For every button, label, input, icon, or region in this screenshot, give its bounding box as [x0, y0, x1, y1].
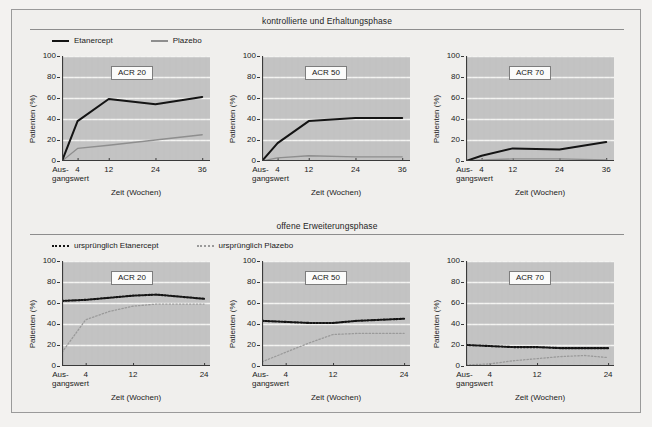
y-tick-mark [461, 98, 464, 99]
y-tick-label: 80 [47, 73, 56, 81]
y-tick-label: 20 [47, 136, 56, 144]
section-title-controlled: kontrollierte und Erhaltungsphase [30, 16, 624, 27]
y-axis-ticks: 020406080100 [226, 50, 260, 167]
x-tick-label: 24 [151, 165, 160, 174]
x-axis-label: Zeit (Wochen) [62, 393, 210, 402]
x-tick-label: 4 [487, 370, 491, 379]
panel-title-badge: ACR 20 [111, 271, 153, 285]
y-axis-ticks: 020406080100 [26, 255, 60, 372]
x-tick-label-baseline-second-line: gangswert [466, 174, 614, 185]
panel-openlabel-acr50: Patienten (%)020406080100ACR 50Aus-41224… [226, 255, 426, 415]
x-tick-label: 12 [329, 370, 338, 379]
y-tick-label: 0 [52, 362, 56, 370]
x-tick-label-baseline: Aus- [252, 370, 268, 379]
y-tick-label: 0 [456, 362, 460, 370]
legend-swatch-line-icon [52, 40, 69, 42]
y-axis-ticks: 020406080100 [430, 255, 464, 372]
panel-openlabel-acr20: Patienten (%)020406080100ACR 20Aus-41224… [26, 255, 226, 415]
legend-item-orig-etanercept: ursprünglich Etanercept [52, 241, 159, 250]
y-tick-label: 100 [447, 257, 460, 265]
x-tick-label: 12 [508, 165, 517, 174]
section-rule-controlled [30, 29, 624, 30]
y-tick-mark [257, 282, 260, 283]
y-tick-mark [57, 345, 60, 346]
y-tick-label: 40 [451, 320, 460, 328]
panel-controlled-acr50: Patienten (%)020406080100ACR 50Aus-41224… [226, 50, 426, 210]
section-rule-openlabel [30, 234, 624, 235]
panel-title-badge: ACR 70 [509, 66, 551, 80]
y-tick-label: 60 [247, 299, 256, 307]
x-tick-label: 24 [200, 370, 209, 379]
y-tick-label: 80 [451, 73, 460, 81]
panel-title-badge: ACR 50 [305, 271, 347, 285]
y-axis-ticks: 020406080100 [226, 255, 260, 372]
panel-title-badge: ACR 20 [111, 66, 153, 80]
legend-controlled: Etanercept Plazebo [52, 36, 202, 45]
x-tick-label: 24 [400, 370, 409, 379]
x-tick-label: 12 [104, 165, 113, 174]
y-tick-label: 100 [447, 52, 460, 60]
y-tick-label: 100 [43, 257, 56, 265]
legend-openlabel: ursprünglich Etanercept ursprünglich Pla… [52, 241, 293, 250]
y-tick-label: 20 [247, 341, 256, 349]
y-tick-mark [461, 366, 464, 367]
y-tick-label: 0 [52, 157, 56, 165]
x-tick-label-baseline-second-line: gangswert [62, 379, 210, 390]
section-controlled-phase: kontrollierte und Erhaltungsphase Etaner… [12, 10, 642, 215]
x-axis-label: Zeit (Wochen) [466, 393, 614, 402]
y-tick-mark [257, 345, 260, 346]
y-axis-ticks: 020406080100 [26, 50, 60, 167]
x-tick-label-baseline-second-line: gangswert [62, 174, 210, 185]
x-axis-label: Zeit (Wochen) [262, 188, 410, 197]
legend-item-orig-plazebo: ursprünglich Plazebo [197, 241, 294, 250]
legend-item-etanercept: Etanercept [52, 36, 113, 45]
y-tick-label: 40 [451, 115, 460, 123]
y-tick-mark [57, 366, 60, 367]
x-tick-label: 36 [602, 165, 611, 174]
y-tick-label: 60 [451, 299, 460, 307]
legend-swatch-dotted-line-icon [197, 245, 214, 247]
y-tick-label: 0 [252, 362, 256, 370]
x-axis-label: Zeit (Wochen) [62, 188, 210, 197]
x-tick-label: 4 [275, 165, 279, 174]
y-tick-mark [57, 261, 60, 262]
y-tick-label: 100 [43, 52, 56, 60]
x-tick-label: 4 [283, 370, 287, 379]
y-tick-mark [461, 303, 464, 304]
y-tick-label: 100 [243, 52, 256, 60]
section-header-controlled: kontrollierte und Erhaltungsphase [30, 16, 624, 34]
x-axis-label: Zeit (Wochen) [262, 393, 410, 402]
x-tick-label-baseline: Aus- [52, 370, 68, 379]
legend-label-orig-etanercept: ursprünglich Etanercept [74, 241, 159, 250]
legend-label-plazebo: Plazebo [173, 36, 202, 45]
x-tick-label-baseline: Aus- [456, 370, 472, 379]
y-tick-mark [57, 140, 60, 141]
y-tick-mark [57, 282, 60, 283]
y-tick-mark [461, 261, 464, 262]
x-tick-label-baseline-second-line: gangswert [262, 174, 410, 185]
y-tick-mark [461, 161, 464, 162]
x-tick-label: 12 [129, 370, 138, 379]
y-tick-mark [257, 161, 260, 162]
y-tick-label: 80 [451, 278, 460, 286]
y-tick-label: 40 [247, 115, 256, 123]
x-tick-label: 36 [398, 165, 407, 174]
legend-item-plazebo: Plazebo [151, 36, 202, 45]
y-tick-mark [257, 140, 260, 141]
y-tick-mark [257, 77, 260, 78]
x-tick-label-baseline: Aus- [252, 165, 268, 174]
y-tick-mark [461, 282, 464, 283]
y-tick-mark [461, 345, 464, 346]
y-tick-mark [57, 303, 60, 304]
y-tick-label: 20 [47, 341, 56, 349]
y-tick-label: 60 [247, 94, 256, 102]
y-tick-label: 40 [47, 320, 56, 328]
y-tick-label: 20 [451, 136, 460, 144]
x-tick-label: 24 [555, 165, 564, 174]
y-tick-mark [57, 77, 60, 78]
y-tick-label: 0 [252, 157, 256, 165]
legend-swatch-dotted-line-icon [52, 245, 69, 247]
x-axis-label: Zeit (Wochen) [466, 188, 614, 197]
y-tick-mark [257, 366, 260, 367]
x-tick-label: 24 [351, 165, 360, 174]
